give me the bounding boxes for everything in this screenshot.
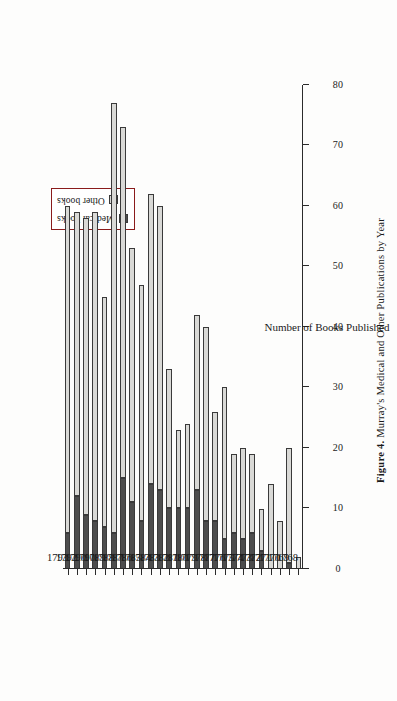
bar-segment-other-books [120,127,126,478]
bar-row [175,85,181,569]
bar-segment-other-books [221,387,227,538]
bar-row [120,85,126,569]
bar-segment-other-books [110,103,116,533]
bar-segment-other-books [212,411,218,520]
category-axis-tick [196,569,197,575]
bar-segment-other-books [175,429,181,508]
bar-row [83,85,89,569]
category-axis-tick [169,569,170,575]
value-axis-tick-label: 70 [332,140,342,150]
chart-plot-stage: Medical books Other books 01020304050607… [49,71,349,631]
figure-caption: Figure 4. Murray's Medical and Other Pub… [365,0,395,701]
category-axis-tick [233,569,234,575]
value-axis-tick-label: 80 [332,80,342,90]
category-axis-tick [159,569,160,575]
bar-row [212,85,218,569]
category-axis-tick [224,569,225,575]
bar-row [147,85,153,569]
category-axis-tick [86,569,87,575]
bar-segment-other-books [73,212,79,496]
bar-row [193,85,199,569]
category-axis-tick [95,569,96,575]
value-axis-tick [303,265,309,266]
bar-row [221,85,227,569]
bar-row [240,85,246,569]
bar-segment-other-books [249,454,255,533]
bar-row [64,85,70,569]
bar-segment-other-books [258,508,264,550]
category-axis-tick [298,569,299,575]
bar-segment-other-books [138,284,144,520]
category-axis-tick [206,569,207,575]
bar-segment-other-books [157,206,163,490]
figure-caption-label: Figure 4. [375,441,386,483]
bar-row [258,85,264,569]
bar-segment-other-books [240,448,246,539]
bar-row [129,85,135,569]
value-axis-tick [303,84,309,85]
category-axis-tick-label: 1768 [277,552,298,563]
value-axis-tick [303,205,309,206]
category-axis-tick [132,569,133,575]
category-axis-tick [270,569,271,575]
category-axis-tick [113,569,114,575]
bar-segment-other-books [166,369,172,508]
value-axis-tick-label: 60 [332,201,342,211]
category-axis-tick [289,569,290,575]
bar-segment-other-books [193,314,199,489]
bar-segment-other-books [64,206,70,533]
figure-caption-text: Murray's Medical and Other Publications … [375,218,386,438]
value-axis-tick [303,386,309,387]
bar-segment-other-books [129,248,135,502]
bar-segment-other-books [147,193,153,483]
category-axis-tick [215,569,216,575]
bar-row [184,85,190,569]
category-axis-tick [141,569,142,575]
category-axis-tick [187,569,188,575]
bar-row [73,85,79,569]
value-axis-tick-label: 0 [335,564,340,574]
bar-row [166,85,172,569]
figure-root: Medical books Other books 01020304050607… [0,0,397,701]
bar-segment-other-books [92,212,98,521]
category-axis-tick [123,569,124,575]
bar-segment-other-books [83,218,89,514]
value-axis-tick [303,507,309,508]
value-axis-tick-label: 20 [332,443,342,453]
bar-row [138,85,144,569]
bar-segment-other-books [184,423,190,508]
category-axis-tick [150,569,151,575]
category-axis-tick [104,569,105,575]
value-axis-tick [303,568,309,569]
value-axis-title: Number of Books Published [321,85,333,569]
bar-row [101,85,107,569]
category-axis-tick [67,569,68,575]
category-axis-tick [279,569,280,575]
value-axis-tick [303,447,309,448]
bar-row [249,85,255,569]
bar-row [230,85,236,569]
category-axis-tick [243,569,244,575]
category-axis-line [63,568,303,569]
category-axis-tick [178,569,179,575]
value-axis-tick-label: 30 [332,382,342,392]
value-axis-tick-label: 10 [332,503,342,513]
bar-row [110,85,116,569]
bar-row [203,85,209,569]
bar-segment-other-books [230,454,236,533]
value-axis-tick [303,144,309,145]
category-axis-tick [252,569,253,575]
value-axis-tick-label: 50 [332,261,342,271]
bar-segment-other-books [101,296,107,526]
bar-row [92,85,98,569]
bar-segment-other-books [286,448,292,563]
bar-row [157,85,163,569]
category-axis-tick [261,569,262,575]
bar-segment-other-books [203,327,209,521]
category-axis-tick [76,569,77,575]
